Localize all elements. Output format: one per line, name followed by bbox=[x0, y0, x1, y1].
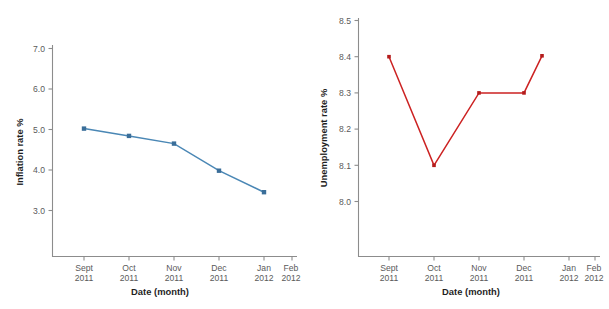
inflation-series-line bbox=[84, 129, 264, 193]
unemployment-x-tick-label-year-2: 2011 bbox=[470, 273, 489, 283]
unemployment-data-point-oct[interactable] bbox=[432, 164, 436, 168]
inflation-x-tick-label-month-0: Sept bbox=[75, 263, 93, 273]
unemployment-y-tick-label-2: 8.3 bbox=[339, 88, 351, 98]
unemployment-chart-svg: 8.5 8.4 8.3 8.2 8.1 8.0 Sept 2011 Oct 20… bbox=[304, 0, 609, 309]
inflation-x-tick-label-month-4: Jan bbox=[257, 263, 271, 273]
inflation-series-markers bbox=[82, 126, 266, 194]
inflation-x-tick-label-month-3: Dec bbox=[211, 263, 227, 273]
inflation-x-ticks bbox=[84, 257, 292, 261]
unemployment-x-tick-label-month-1: Oct bbox=[427, 263, 441, 273]
unemployment-x-tick-label-month-3: Dec bbox=[516, 263, 532, 273]
unemployment-y-axis-title: Unemployment rate % bbox=[318, 88, 329, 187]
inflation-x-tick-label-year-1: 2011 bbox=[120, 273, 139, 283]
unemployment-x-tick-label-year-4: 2012 bbox=[559, 273, 578, 283]
unemployment-data-point-nov[interactable] bbox=[477, 91, 481, 95]
chart-panel-unemployment: 8.5 8.4 8.3 8.2 8.1 8.0 Sept 2011 Oct 20… bbox=[304, 0, 609, 309]
unemployment-data-point-jan[interactable] bbox=[540, 54, 544, 58]
unemployment-y-tick-label-0: 8.5 bbox=[339, 16, 351, 26]
inflation-x-tick-label-year-2: 2011 bbox=[165, 273, 184, 283]
inflation-x-tick-label-month-5: Feb bbox=[284, 263, 299, 273]
inflation-data-point-sept[interactable] bbox=[82, 126, 86, 130]
unemployment-y-tick-label-4: 8.1 bbox=[339, 161, 351, 171]
inflation-y-tick-label-2: 5.0 bbox=[33, 125, 45, 135]
unemployment-data-point-sept[interactable] bbox=[387, 55, 391, 59]
inflation-y-axis-title: Inflation rate % bbox=[14, 118, 25, 186]
unemployment-series-line bbox=[389, 56, 542, 166]
unemployment-x-tick-label-month-4: Jan bbox=[562, 263, 576, 273]
figure-container: 7.0 6.0 5.0 4.0 3.0 Sept 2011 Oct 2011 N… bbox=[0, 0, 609, 309]
inflation-x-tick-label-year-4: 2012 bbox=[254, 273, 273, 283]
chart-panel-inflation: 7.0 6.0 5.0 4.0 3.0 Sept 2011 Oct 2011 N… bbox=[0, 0, 305, 309]
unemployment-x-tick-label-month-2: Nov bbox=[471, 263, 487, 273]
unemployment-data-point-dec[interactable] bbox=[522, 91, 526, 95]
inflation-y-tick-label-4: 3.0 bbox=[33, 206, 45, 216]
unemployment-x-axis-title: Date (month) bbox=[442, 286, 500, 297]
inflation-x-tick-label-month-1: Oct bbox=[122, 263, 136, 273]
unemployment-y-ticks bbox=[355, 21, 359, 202]
unemployment-x-tick-label-year-1: 2011 bbox=[425, 273, 444, 283]
inflation-y-tick-label-3: 4.0 bbox=[33, 165, 45, 175]
inflation-data-point-oct[interactable] bbox=[127, 134, 131, 138]
inflation-x-tick-label-year-5: 2012 bbox=[281, 273, 300, 283]
unemployment-y-tick-label-3: 8.2 bbox=[339, 124, 351, 134]
inflation-y-ticks bbox=[49, 49, 53, 211]
unemployment-x-ticks bbox=[389, 257, 595, 261]
inflation-x-tick-label-year-3: 2011 bbox=[210, 273, 229, 283]
unemployment-x-tick-label-year-0: 2011 bbox=[380, 273, 399, 283]
unemployment-x-tick-label-year-5: 2012 bbox=[584, 273, 603, 283]
inflation-x-tick-label-month-2: Nov bbox=[166, 263, 182, 273]
unemployment-y-tick-label-1: 8.4 bbox=[339, 52, 351, 62]
unemployment-x-tick-label-month-5: Feb bbox=[587, 263, 602, 273]
inflation-chart-svg: 7.0 6.0 5.0 4.0 3.0 Sept 2011 Oct 2011 N… bbox=[0, 0, 305, 309]
inflation-y-tick-label-0: 7.0 bbox=[33, 44, 45, 54]
unemployment-y-tick-label-5: 8.0 bbox=[339, 197, 351, 207]
inflation-data-point-nov[interactable] bbox=[172, 141, 176, 145]
inflation-x-tick-label-year-0: 2011 bbox=[75, 273, 94, 283]
inflation-data-point-jan[interactable] bbox=[262, 190, 266, 194]
inflation-data-point-dec[interactable] bbox=[217, 169, 221, 173]
inflation-x-axis-title: Date (month) bbox=[131, 286, 189, 297]
inflation-y-tick-label-1: 6.0 bbox=[33, 84, 45, 94]
unemployment-x-tick-label-year-3: 2011 bbox=[515, 273, 534, 283]
unemployment-x-tick-label-month-0: Sept bbox=[380, 263, 398, 273]
